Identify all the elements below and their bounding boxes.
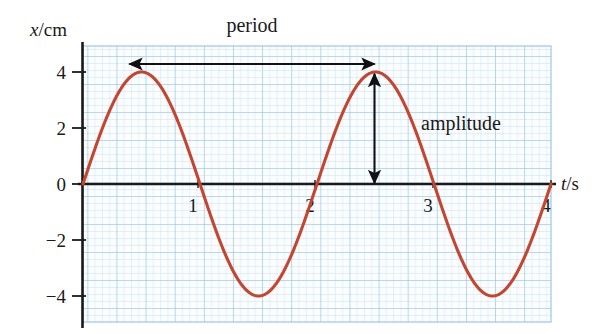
graph-canvas: 4 2 0 −2 −4 1 2 3 4 x/cm t/s period a — [0, 0, 604, 334]
y-tick-label-neg4: −4 — [46, 286, 67, 307]
y-axis-unit: /cm — [38, 19, 67, 40]
displacement-time-graph-figure: 4 2 0 −2 −4 1 2 3 4 x/cm t/s period a — [0, 0, 604, 334]
amplitude-label: amplitude — [421, 112, 501, 135]
y-tick-label-2: 2 — [57, 118, 67, 139]
x-axis-title: t/s — [561, 173, 579, 194]
y-tick-label-4: 4 — [57, 62, 67, 83]
x-axis-unit: /s — [566, 173, 579, 194]
y-tick-label-neg2: −2 — [46, 230, 66, 251]
x-tick-label-3: 3 — [423, 195, 433, 216]
y-tick-label-0: 0 — [57, 174, 67, 195]
period-label: period — [226, 14, 277, 37]
x-tick-label-1: 1 — [188, 195, 198, 216]
y-axis-title: x/cm — [29, 19, 67, 40]
